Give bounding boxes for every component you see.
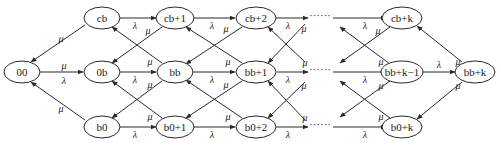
- state-label: b0+k: [391, 121, 414, 133]
- rate-label-lambda: λ: [132, 20, 138, 31]
- rate-label-mu: μ: [144, 25, 150, 36]
- continuation-dots: ······ ······ ······: [309, 9, 331, 130]
- state-node-bb-plus-k-minus-1: bb+k−1: [381, 61, 423, 83]
- rate-label-lambda: λ: [61, 75, 67, 86]
- state-label: b0+1: [164, 121, 187, 133]
- rate-label-mu: μ: [146, 56, 152, 67]
- state-node-b0-plus-1: b0+1: [156, 116, 194, 138]
- state-label: bb: [170, 66, 182, 78]
- state-node-cb: cb: [84, 7, 120, 29]
- state-label: cb+2: [245, 12, 267, 24]
- rate-label-lambda: λ: [209, 129, 215, 140]
- state-label: cb+k: [391, 12, 414, 24]
- rate-label-lambda: λ: [285, 74, 291, 85]
- rate-label-lambda: λ: [436, 59, 442, 70]
- state-label: 00: [17, 66, 29, 78]
- rate-label-mu: μ: [377, 56, 383, 67]
- ellipsis-bottom: ······: [309, 118, 331, 130]
- rate-label-lambda: λ: [362, 129, 368, 140]
- state-label: 0b: [97, 66, 109, 78]
- rate-label-lambda: λ: [285, 129, 291, 140]
- state-node-cb-plus-k: cb+k: [382, 7, 422, 29]
- rate-label-mu: μ: [224, 56, 230, 67]
- state-label: bb+1: [245, 66, 268, 78]
- state-node-00: 00: [4, 61, 40, 83]
- state-label: b0+2: [245, 121, 268, 133]
- rate-label-mu: μ: [57, 103, 63, 114]
- state-node-cb-plus-1: cb+1: [156, 7, 194, 29]
- rate-label-mu: μ: [377, 80, 383, 91]
- rate-label-mu: μ: [222, 23, 228, 34]
- rate-label-mu: μ: [60, 60, 66, 71]
- state-node-b0-plus-2: b0+2: [236, 116, 276, 138]
- state-node-b0-plus-k: b0+k: [382, 116, 422, 138]
- ellipsis-middle: ······: [309, 63, 331, 75]
- rate-label-mu: μ: [224, 111, 230, 122]
- rate-label-mu: μ: [454, 80, 460, 91]
- state-label: b0: [97, 121, 109, 133]
- state-label: bb+k: [464, 66, 487, 78]
- rate-label-lambda: λ: [285, 20, 291, 31]
- state-label: bb+k−1: [385, 66, 419, 78]
- markov-state-diagram: μ λ μ μ λ λ λ μ μ μ μ λ λ λ μ μ μ μ λ λ …: [0, 0, 501, 146]
- rate-label-mu: μ: [300, 80, 306, 91]
- state-node-bb-plus-k: bb+k: [455, 61, 495, 83]
- state-node-b0: b0: [84, 116, 120, 138]
- rate-label-lambda: λ: [132, 74, 138, 85]
- rate-label-mu: μ: [146, 111, 152, 122]
- rate-label-lambda: λ: [362, 20, 368, 31]
- rate-label-lambda: λ: [362, 74, 368, 85]
- rate-label-lambda: λ: [209, 20, 215, 31]
- rate-label-mu: μ: [300, 23, 306, 34]
- rate-label-lambda: λ: [209, 74, 215, 85]
- rate-label-mu: μ: [374, 25, 380, 36]
- rate-label-mu: μ: [57, 33, 63, 44]
- rate-label-mu: μ: [301, 57, 307, 68]
- rate-label-mu: μ: [222, 79, 228, 90]
- state-node-0b: 0b: [84, 61, 120, 83]
- rate-label-lambda: λ: [132, 129, 138, 140]
- edge-cb-to-00: [31, 25, 85, 62]
- rate-label-mu: μ: [301, 112, 307, 123]
- rate-label-mu: μ: [146, 79, 152, 90]
- rate-label-mu: μ: [377, 111, 383, 122]
- state-label: cb: [97, 12, 108, 24]
- ellipsis-top: ······: [309, 9, 331, 21]
- state-label: cb+1: [164, 12, 186, 24]
- state-node-cb-plus-2: cb+2: [236, 7, 276, 29]
- state-node-bb-plus-1: bb+1: [236, 61, 276, 83]
- edge-b0-to-00: [31, 82, 85, 120]
- state-node-bb: bb: [157, 61, 193, 83]
